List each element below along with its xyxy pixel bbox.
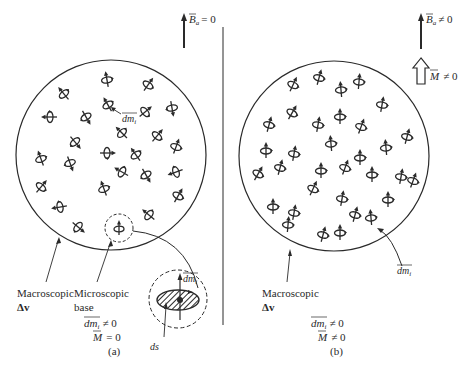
- equation-dm-b: dmi≠ 0: [311, 317, 344, 331]
- dipole-label: dmi: [397, 265, 411, 278]
- macroscopic-label: Macroscopic: [17, 287, 74, 299]
- microscopic-label: Microscopic: [74, 287, 129, 299]
- area-element-label: ds: [150, 341, 159, 352]
- caption-a: (a): [108, 345, 121, 358]
- microscopic-base-label: base: [74, 301, 94, 313]
- equation-m-b: M≠ 0: [317, 331, 346, 343]
- equation-dm-a: dmi≠ 0: [84, 317, 117, 331]
- equation-m-a: M= 0: [92, 331, 121, 343]
- field-label-b: Ba= 0: [189, 13, 216, 27]
- aligned-dipoles: [250, 68, 423, 244]
- dipole-diagram: Ba= 0: [0, 0, 468, 370]
- macroscopic-volume-symbol: Δv: [262, 301, 275, 313]
- applied-field-arrow: [418, 13, 424, 49]
- field-label-b: Ba≠ 0: [426, 13, 453, 27]
- inset-dipole-label: dmi: [183, 273, 197, 286]
- random-dipoles: [32, 70, 188, 238]
- caption-b: (b): [330, 345, 343, 358]
- magnetization-arrow: [413, 58, 429, 84]
- magnetization-label: M≠ 0: [429, 70, 458, 82]
- magnified-inset: dmi ds: [149, 270, 207, 352]
- macroscopic-volume-symbol: Δv: [17, 301, 30, 313]
- panel-b: Ba≠ 0 M≠ 0: [239, 13, 458, 358]
- macroscopic-volume-circle: [239, 61, 429, 251]
- panel-a: Ba= 0: [16, 13, 216, 358]
- macroscopic-label: Macroscopic: [262, 287, 319, 299]
- applied-field-arrow: [181, 13, 187, 48]
- dipole-label: dmi: [122, 113, 136, 126]
- macroscopic-volume-circle: [16, 60, 206, 250]
